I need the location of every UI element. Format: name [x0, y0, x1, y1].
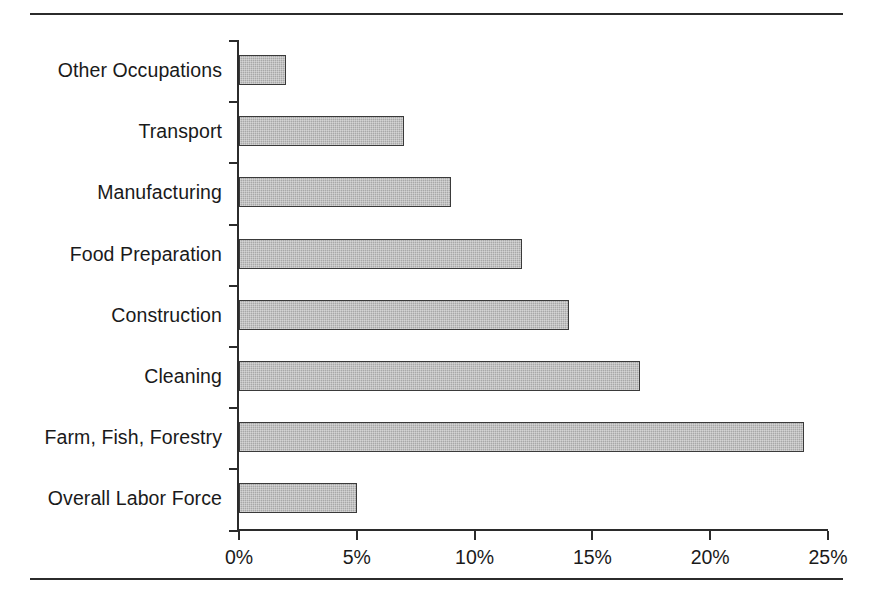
bar-chart-plot: Other OccupationsTransportManufacturingF… — [0, 0, 873, 605]
y-axis-tick — [229, 101, 238, 103]
y-axis-tick — [229, 530, 238, 532]
category-label: Construction — [0, 285, 222, 346]
bar — [239, 177, 451, 207]
bar — [239, 422, 804, 452]
y-axis-tick — [229, 162, 238, 164]
bar-row: Construction — [0, 285, 873, 346]
bar — [239, 116, 404, 146]
x-axis-tick — [238, 531, 240, 540]
y-axis-tick — [229, 346, 238, 348]
x-axis-tick — [591, 531, 593, 540]
category-label: Manufacturing — [0, 162, 222, 223]
y-axis-tick — [229, 407, 238, 409]
x-axis-tick-label: 5% — [317, 546, 397, 569]
category-label: Cleaning — [0, 346, 222, 407]
bar-row: Cleaning — [0, 346, 873, 407]
bar-row: Transport — [0, 101, 873, 162]
category-label: Food Preparation — [0, 224, 222, 285]
x-axis-tick-label: 25% — [788, 546, 868, 569]
category-label: Transport — [0, 101, 222, 162]
bar — [239, 55, 286, 85]
bar — [239, 300, 569, 330]
category-label: Overall Labor Force — [0, 468, 222, 529]
bar-row: Other Occupations — [0, 40, 873, 101]
category-label: Farm, Fish, Forestry — [0, 407, 222, 468]
y-axis-tick — [229, 40, 238, 42]
figure-page: Other OccupationsTransportManufacturingF… — [0, 0, 873, 605]
y-axis-tick — [229, 224, 238, 226]
x-axis-tick-label: 20% — [670, 546, 750, 569]
bar-row: Farm, Fish, Forestry — [0, 407, 873, 468]
bar — [239, 361, 640, 391]
bar-row: Food Preparation — [0, 224, 873, 285]
x-axis-tick-label: 0% — [199, 546, 279, 569]
x-axis-tick — [356, 531, 358, 540]
bar-row: Overall Labor Force — [0, 468, 873, 529]
bar-row: Manufacturing — [0, 162, 873, 223]
bar — [239, 239, 522, 269]
bar — [239, 483, 357, 513]
x-axis-tick — [474, 531, 476, 540]
x-axis-tick — [827, 531, 829, 540]
y-axis-tick — [229, 285, 238, 287]
x-axis-tick-label: 15% — [552, 546, 632, 569]
y-axis-tick — [229, 468, 238, 470]
x-axis-tick-label: 10% — [435, 546, 515, 569]
category-label: Other Occupations — [0, 40, 222, 101]
x-axis-tick — [709, 531, 711, 540]
